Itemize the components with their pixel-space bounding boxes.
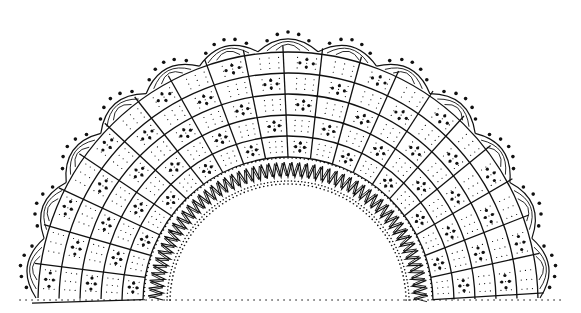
picot (360, 43, 364, 47)
cell-knot (446, 122, 449, 125)
cell-knot (486, 168, 489, 171)
cell-knot (418, 153, 421, 156)
cell-knot (298, 61, 301, 64)
cell-knot (189, 129, 192, 132)
scallop-arc (514, 191, 532, 230)
picot (172, 58, 176, 62)
cell-knot (117, 252, 120, 255)
cell-knot (493, 179, 496, 182)
cell-knot (242, 112, 245, 115)
picot (539, 212, 543, 216)
cell-knot (215, 139, 218, 142)
cell-knot (98, 190, 101, 193)
cell-knot (451, 191, 454, 194)
grid-spoke (390, 116, 464, 199)
scallop-arc (437, 99, 469, 127)
picot (109, 97, 113, 101)
cell-knot (142, 243, 145, 246)
lace-pattern-illustration: semicircular lace doily pattern (0, 0, 581, 313)
cell-knot (246, 107, 249, 110)
cell-knot (438, 266, 441, 269)
grid-spoke (79, 154, 171, 216)
picot (400, 58, 404, 62)
cell-knot (307, 104, 310, 107)
cell-knot (218, 134, 221, 137)
picot (222, 38, 226, 42)
scallop-arc (44, 191, 62, 230)
cell-knot (73, 253, 76, 256)
picot (102, 106, 106, 110)
cell-knot (141, 137, 144, 140)
cell-knot (101, 221, 104, 224)
picot (35, 201, 39, 205)
cell-knot (105, 179, 108, 182)
cell-knot (491, 213, 494, 216)
cell-knot (490, 220, 493, 223)
cell-knot (436, 258, 439, 261)
cell-knot (103, 228, 106, 231)
cell-knot (383, 81, 386, 84)
lace-semicircle-drawing (0, 0, 581, 313)
picot (512, 167, 516, 171)
grid-spoke (372, 91, 432, 184)
picot (118, 92, 122, 96)
cell-knot (255, 148, 258, 151)
cell-knot (268, 125, 271, 128)
picot (554, 264, 558, 268)
cell-knot (394, 110, 397, 113)
picot (328, 42, 332, 46)
scallop-arc (276, 44, 300, 50)
grid-spoke (35, 263, 145, 277)
picot (548, 286, 552, 290)
cell-knot (457, 200, 460, 203)
picot (442, 90, 446, 94)
picot (350, 38, 354, 42)
grid-spoke (105, 123, 186, 198)
cell-knot (70, 208, 73, 211)
cell-knot (235, 110, 238, 113)
picot (30, 244, 34, 248)
picot (339, 38, 343, 42)
cell-knot (331, 87, 334, 90)
picot (41, 192, 45, 196)
picot (425, 78, 429, 82)
cell-knot (452, 230, 455, 233)
scallop-arc (393, 72, 414, 84)
cell-knot (108, 224, 111, 227)
picot (212, 43, 216, 47)
cell-knot (436, 113, 439, 116)
cell-knot (276, 82, 279, 85)
cell-knot (141, 167, 144, 170)
cell-knot (485, 209, 488, 212)
grid-spoke (283, 46, 288, 157)
cell-knot (225, 69, 228, 72)
cell-knot (114, 262, 117, 265)
picot (276, 33, 280, 37)
cell-knot (504, 286, 507, 289)
picot (66, 145, 70, 149)
cell-knot (296, 103, 299, 106)
cell-knot (69, 200, 72, 203)
cell-knot (445, 232, 448, 235)
picot (368, 51, 372, 55)
picot (74, 137, 78, 141)
cell-knot (89, 288, 92, 291)
picot (454, 92, 458, 96)
picot (85, 133, 89, 137)
cell-knot (157, 99, 160, 102)
picot (233, 38, 237, 42)
picot (531, 192, 535, 196)
grid-spoke (332, 57, 361, 164)
cell-knot (332, 130, 335, 133)
picot (542, 244, 546, 248)
cell-knot (140, 238, 143, 241)
grid-ring (122, 136, 454, 299)
picot (147, 78, 151, 82)
picot (470, 106, 474, 110)
picot (61, 167, 65, 171)
cell-knot (179, 134, 182, 137)
cell-knot (90, 277, 93, 280)
scallop-arc (267, 41, 309, 50)
picot (19, 264, 23, 268)
picot (33, 212, 37, 216)
